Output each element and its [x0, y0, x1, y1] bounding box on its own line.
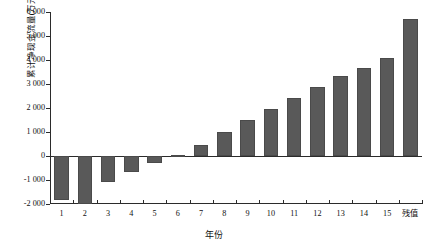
- x-axis-tick-label: 10: [267, 210, 275, 218]
- y-axis-tick: [46, 108, 50, 109]
- x-axis-tick-label: 8: [222, 210, 226, 218]
- bar: [310, 87, 324, 156]
- x-axis-tick-label: 7: [199, 210, 203, 218]
- bar: [124, 156, 138, 172]
- x-axis-tick: [166, 200, 167, 204]
- x-axis-tick-label: 11: [290, 210, 298, 218]
- y-axis-tick-label: -1 000: [24, 176, 45, 184]
- bar: [380, 58, 394, 156]
- plot-area: -2 000-1 00001 0002 0003 0004 0005 0006 …: [50, 12, 422, 204]
- x-axis-tick-label: 15: [383, 210, 391, 218]
- x-axis-tick: [306, 200, 307, 204]
- y-axis-tick: [46, 132, 50, 133]
- x-axis-tick-label: 3: [106, 210, 110, 218]
- x-axis-tick-label: 残值: [402, 210, 418, 218]
- x-axis-tick: [283, 200, 284, 204]
- y-axis-tick: [46, 180, 50, 181]
- bar: [101, 156, 115, 182]
- x-axis-tick-label: 13: [337, 210, 345, 218]
- bar: [240, 120, 254, 156]
- x-axis-tick: [329, 200, 330, 204]
- x-axis-tick-label: 9: [246, 210, 250, 218]
- x-axis-tick: [422, 200, 423, 204]
- x-axis-tick-label: 12: [313, 210, 321, 218]
- y-axis-tick: [46, 36, 50, 37]
- bar: [194, 145, 208, 156]
- y-axis-tick: [46, 204, 50, 205]
- y-axis-tick-label: 4 000: [27, 56, 45, 64]
- x-axis-title: 年份: [0, 228, 428, 241]
- y-axis-tick-label: 6 000: [27, 8, 45, 16]
- x-axis-tick: [213, 200, 214, 204]
- y-axis-tick: [46, 84, 50, 85]
- y-axis-tick: [46, 156, 50, 157]
- y-axis-tick-label: 0: [41, 152, 45, 160]
- bar: [333, 76, 347, 156]
- bar: [171, 155, 185, 157]
- x-axis-tick: [259, 200, 260, 204]
- x-axis-tick: [120, 200, 121, 204]
- bar: [54, 156, 68, 200]
- x-axis-tick-label: 5: [153, 210, 157, 218]
- bar: [78, 156, 92, 204]
- bar: [147, 156, 161, 163]
- cumulative-cash-flow-chart: 累计净现金流量(万元) -2 000-1 00001 0002 0003 000…: [0, 0, 428, 246]
- y-axis-tick: [46, 12, 50, 13]
- bar: [217, 132, 231, 156]
- y-axis-tick-label: 2 000: [27, 104, 45, 112]
- x-axis-tick-label: 4: [129, 210, 133, 218]
- bar: [357, 68, 371, 156]
- y-axis-tick: [46, 60, 50, 61]
- x-axis-tick: [236, 200, 237, 204]
- y-axis-tick-label: 3 000: [27, 80, 45, 88]
- x-axis-tick-label: 14: [360, 210, 368, 218]
- bar: [287, 98, 301, 156]
- x-axis-tick-label: 1: [60, 210, 64, 218]
- x-axis-tick: [352, 200, 353, 204]
- x-axis-tick-label: 6: [176, 210, 180, 218]
- bar: [403, 19, 417, 156]
- x-axis-tick: [376, 200, 377, 204]
- y-axis-line: [50, 12, 51, 204]
- x-axis-tick: [190, 200, 191, 204]
- y-axis-tick-label: -2 000: [24, 200, 45, 208]
- y-axis-title-wrapper: 累计净现金流量(万元): [2, 28, 16, 198]
- x-axis-tick-label: 2: [83, 210, 87, 218]
- x-axis-tick: [73, 200, 74, 204]
- bar: [264, 109, 278, 156]
- x-axis-tick: [399, 200, 400, 204]
- x-axis-tick: [143, 200, 144, 204]
- x-axis-tick: [97, 200, 98, 204]
- y-axis-tick-label: 5 000: [27, 32, 45, 40]
- y-axis-tick-label: 1 000: [27, 128, 45, 136]
